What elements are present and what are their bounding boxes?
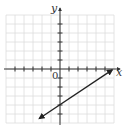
axes xyxy=(4,8,120,125)
data-line xyxy=(39,70,112,119)
y-axis-label: y xyxy=(50,2,58,15)
coordinate-plane: x y 0 xyxy=(0,0,126,132)
x-axis-label: x xyxy=(116,66,123,79)
origin-label: 0 xyxy=(52,70,58,81)
